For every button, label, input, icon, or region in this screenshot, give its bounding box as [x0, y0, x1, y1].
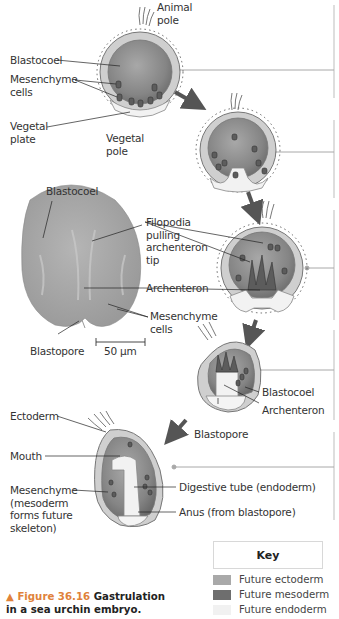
- label-vegetal-plate-line1: Vegetal: [10, 120, 48, 133]
- key-item-endoderm: Future endoderm: [213, 604, 327, 615]
- figure-caption: ▲ Figure 36.16 Gastrulation in a sea urc…: [6, 591, 165, 616]
- label-mesenchyme-5-line3: forms future: [10, 509, 77, 522]
- key-title-box: Key: [213, 541, 323, 569]
- label-ectoderm: Ectoderm: [10, 410, 59, 423]
- scale-bar-label: 50 μm: [104, 345, 137, 358]
- arrow-stage4-to-5: [172, 420, 186, 436]
- label-archenteron-micrograph: Archenteron: [146, 282, 208, 295]
- label-archenteron-4: Archenteron: [262, 404, 324, 417]
- micrograph: [22, 185, 141, 328]
- label-blastopore-micrograph: Blastopore: [30, 345, 84, 358]
- label-filopodia-line3: archenteron: [146, 241, 208, 254]
- label-mesenchyme-cells-micrograph: Mesenchyme cells: [150, 310, 217, 335]
- label-digestive-tube: Digestive tube (endoderm): [179, 481, 316, 494]
- label-filopodia-line2: pulling: [146, 229, 208, 242]
- label-animal-pole-line2: pole: [157, 14, 192, 27]
- arrow-stage1-to-2: [175, 92, 196, 104]
- arrow-stage3-to-4: [250, 320, 256, 338]
- stage2-early-gastrula: [196, 93, 280, 192]
- label-animal-pole-line1: Animal: [157, 1, 192, 14]
- key-item-mesoderm: Future mesoderm: [213, 589, 329, 600]
- label-anus: Anus (from blastopore): [179, 506, 296, 519]
- label-blastopore-4: Blastopore: [194, 428, 248, 441]
- swatch-mesoderm: [213, 590, 231, 600]
- arrow-stage2-to-3: [248, 192, 256, 214]
- swatch-ectoderm: [213, 575, 231, 585]
- figure-title-line2: in a sea urchin embryo.: [6, 604, 165, 617]
- label-vegetal-plate: Vegetal plate: [10, 120, 48, 145]
- stage5-larva: [88, 411, 163, 527]
- key-label-endoderm: Future endoderm: [239, 604, 327, 615]
- label-blastocoel-1: Blastocoel: [10, 54, 62, 67]
- label-filopodia-line1: Filopodia: [146, 216, 208, 229]
- label-vegetal-pole: Vegetal pole: [106, 132, 144, 157]
- stage3-mid-gastrula: [217, 201, 307, 313]
- label-mesenchyme-5-line4: skeleton): [10, 522, 77, 535]
- label-vegetal-plate-line2: plate: [10, 133, 48, 146]
- key-title: Key: [257, 549, 280, 562]
- figure-title-line1: Gastrulation: [94, 591, 165, 602]
- key-label-mesoderm: Future mesoderm: [239, 589, 329, 600]
- label-mesenchyme-5: Mesenchyme (mesoderm forms future skelet…: [10, 484, 77, 534]
- label-animal-pole: Animal pole: [157, 1, 192, 26]
- label-mouth: Mouth: [10, 450, 42, 463]
- label-mesenchyme-micro-line1: Mesenchyme: [150, 310, 217, 323]
- figure-number: ▲ Figure 36.16: [6, 591, 90, 602]
- label-mesenchyme-5-line1: Mesenchyme: [10, 484, 77, 497]
- label-filopodia: Filopodia pulling archenteron tip: [146, 216, 208, 266]
- key-label-ectoderm: Future ectoderm: [239, 574, 323, 585]
- label-mesenchyme-line1: Mesenchyme: [10, 73, 77, 86]
- label-vegetal-pole-line2: pole: [106, 145, 144, 158]
- label-mesenchyme-cells-1: Mesenchyme cells: [10, 73, 77, 98]
- label-mesenchyme-line2: cells: [10, 86, 77, 99]
- swatch-endoderm: [213, 605, 231, 615]
- label-filopodia-line4: tip: [146, 254, 208, 267]
- label-mesenchyme-micro-line2: cells: [150, 323, 217, 336]
- label-blastocoel-4: Blastocoel: [262, 386, 314, 399]
- key-item-ectoderm: Future ectoderm: [213, 574, 323, 585]
- label-blastocoel-micrograph: Blastocoel: [46, 185, 98, 198]
- label-vegetal-pole-line1: Vegetal: [106, 132, 144, 145]
- label-mesenchyme-5-line2: (mesoderm: [10, 497, 77, 510]
